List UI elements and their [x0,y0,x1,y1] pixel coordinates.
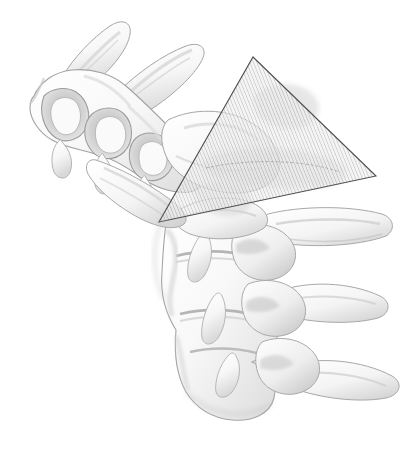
lower-cervical-group [162,198,399,420]
anatomical-figure: Cervical spine lateral oblique view with… [0,0,416,453]
cervical-spine-illustration [0,0,416,453]
